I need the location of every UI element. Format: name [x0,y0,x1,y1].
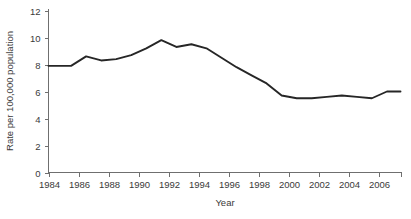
x-tick-label: 1996 [219,179,240,190]
y-tick-label: 8 [35,60,40,71]
y-tick-label: 6 [35,87,40,98]
x-tick-label: 1984 [39,179,60,190]
x-tick-label: 1998 [249,179,270,190]
y-tick-label: 0 [35,168,40,179]
x-tick-label: 1986 [69,179,90,190]
y-tick-label: 2 [35,141,40,152]
data-series-line [49,40,401,98]
x-tick-label: 2006 [369,179,390,190]
x-tick-label: 1994 [189,179,210,190]
line-chart: 024681012 198419861988199019921994199619… [0,0,411,219]
chart-canvas: 024681012 198419861988199019921994199619… [0,0,411,219]
y-axis-ticks: 024681012 [30,6,49,179]
x-tick-label: 1988 [99,179,120,190]
y-tick-label: 10 [30,33,41,44]
y-tick-label: 12 [30,6,41,17]
x-tick-label: 2000 [279,179,300,190]
y-tick-label: 4 [35,114,40,125]
y-axis-title: Rate per 100,000 population [4,31,15,151]
x-tick-label: 2004 [339,179,360,190]
x-tick-label: 1992 [159,179,180,190]
x-tick-label: 1990 [129,179,150,190]
x-axis-ticks: 1984198619881990199219941996199820002002… [39,173,402,190]
x-tick-label: 2002 [309,179,330,190]
x-axis-title: Year [215,197,234,208]
